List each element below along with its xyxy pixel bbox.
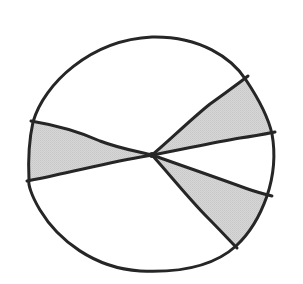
- circle-sector-diagram: [0, 0, 303, 284]
- center-point: [149, 152, 155, 158]
